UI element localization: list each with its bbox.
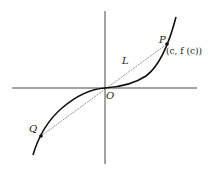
label-origin: O [106, 91, 114, 101]
graph-canvas [0, 0, 208, 171]
label-q: Q [29, 124, 37, 134]
secant-line-l [41, 44, 167, 136]
point-q-dot [39, 134, 43, 138]
label-p-coordinates: (c, f (c)) [166, 47, 202, 56]
label-line-l: L [122, 56, 129, 66]
label-p: P [159, 35, 166, 45]
function-graph-figure: P (c, f (c)) L O Q [0, 0, 208, 171]
curve-f [33, 17, 176, 155]
